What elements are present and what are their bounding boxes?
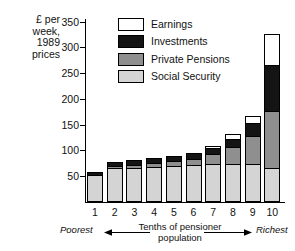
bar-segment-social (265, 168, 279, 201)
bar-decile-7[interactable] (205, 146, 221, 202)
x-axis-caption: Poorest Richest Tenths of pensioner popu… (60, 222, 295, 250)
legend-label-investments: Investments (151, 36, 208, 47)
bar-segment-social (226, 164, 240, 201)
bar-decile-2[interactable] (107, 162, 123, 202)
y-tick-label: 200 (49, 94, 79, 104)
caption-richest: Richest (256, 224, 288, 235)
y-tick-label: 100 (49, 145, 79, 155)
legend-label-pensions: Private Pensions (151, 54, 230, 65)
bar-segment-pensions (265, 111, 279, 167)
x-tick-label-8: 8 (225, 206, 241, 218)
bar-segment-social (127, 168, 141, 201)
y-tick (80, 22, 85, 23)
bar-segment-social (246, 164, 260, 201)
bar-segment-pensions (246, 136, 260, 164)
bar-decile-1[interactable] (87, 172, 103, 202)
y-tick-label: 300 (49, 42, 79, 52)
bar-segment-investments (226, 139, 240, 148)
bar-segment-social (187, 165, 201, 201)
caption-middle: Tenths of pensioner population (124, 222, 236, 243)
x-tick-label-5: 5 (166, 206, 182, 218)
x-axis-tick-labels: 12345678910 (86, 206, 285, 220)
bar-segment-pensions (206, 154, 220, 164)
x-tick-label-7: 7 (205, 206, 221, 218)
x-tick-label-9: 9 (245, 206, 261, 218)
x-tick-label-2: 2 (107, 206, 123, 218)
caption-middle-line-2: population (158, 232, 202, 243)
y-tick (80, 47, 85, 48)
bar-segment-earnings (265, 35, 279, 66)
legend-item-investments[interactable]: Investments (118, 34, 238, 50)
bar-segment-social (88, 175, 102, 201)
y-tick-label: 350 (49, 17, 79, 27)
y-tick (80, 125, 85, 126)
bar-decile-5[interactable] (166, 156, 182, 202)
legend-item-social[interactable]: Social Security (118, 69, 238, 85)
legend-swatch-investments (118, 35, 144, 48)
bar-decile-9[interactable] (245, 116, 261, 202)
x-tick-label-10: 10 (264, 206, 280, 218)
legend-swatch-earnings (118, 18, 144, 31)
caption-middle-line-1: Tenths of pensioner (139, 221, 222, 232)
bar-segment-social (108, 168, 122, 201)
x-tick-label-3: 3 (126, 206, 142, 218)
bar-decile-6[interactable] (186, 153, 202, 202)
chart-legend: EarningsInvestmentsPrivate PensionsSocia… (118, 16, 238, 86)
bar-decile-4[interactable] (146, 158, 162, 202)
legend-label-earnings: Earnings (151, 19, 192, 30)
bar-segment-investments (265, 65, 279, 111)
y-tick (80, 73, 85, 74)
y-tick (80, 99, 85, 100)
y-tick-label: 50 (49, 171, 79, 181)
y-tick-label: 250 (49, 68, 79, 78)
legend-item-pensions[interactable]: Private Pensions (118, 51, 238, 67)
x-tick-label-1: 1 (87, 206, 103, 218)
bar-segment-social (206, 164, 220, 201)
bar-segment-social (147, 167, 161, 201)
bar-decile-3[interactable] (126, 160, 142, 202)
legend-swatch-pensions (118, 53, 144, 66)
bar-segment-investments (246, 123, 260, 136)
chart-figure: £ per week, 1989 prices 5010015020025030… (0, 0, 295, 251)
legend-label-social: Social Security (151, 71, 220, 82)
x-tick-label-4: 4 (146, 206, 162, 218)
bar-segment-social (167, 166, 181, 201)
legend-item-earnings[interactable]: Earnings (118, 16, 238, 32)
y-tick-label: 150 (49, 120, 79, 130)
bar-decile-8[interactable] (225, 134, 241, 202)
caption-poorest: Poorest (60, 224, 93, 235)
bar-decile-10[interactable] (264, 34, 280, 202)
x-tick-label-6: 6 (186, 206, 202, 218)
legend-swatch-social (118, 70, 144, 83)
y-tick (80, 176, 85, 177)
bar-segment-pensions (226, 147, 240, 164)
y-tick (80, 150, 85, 151)
